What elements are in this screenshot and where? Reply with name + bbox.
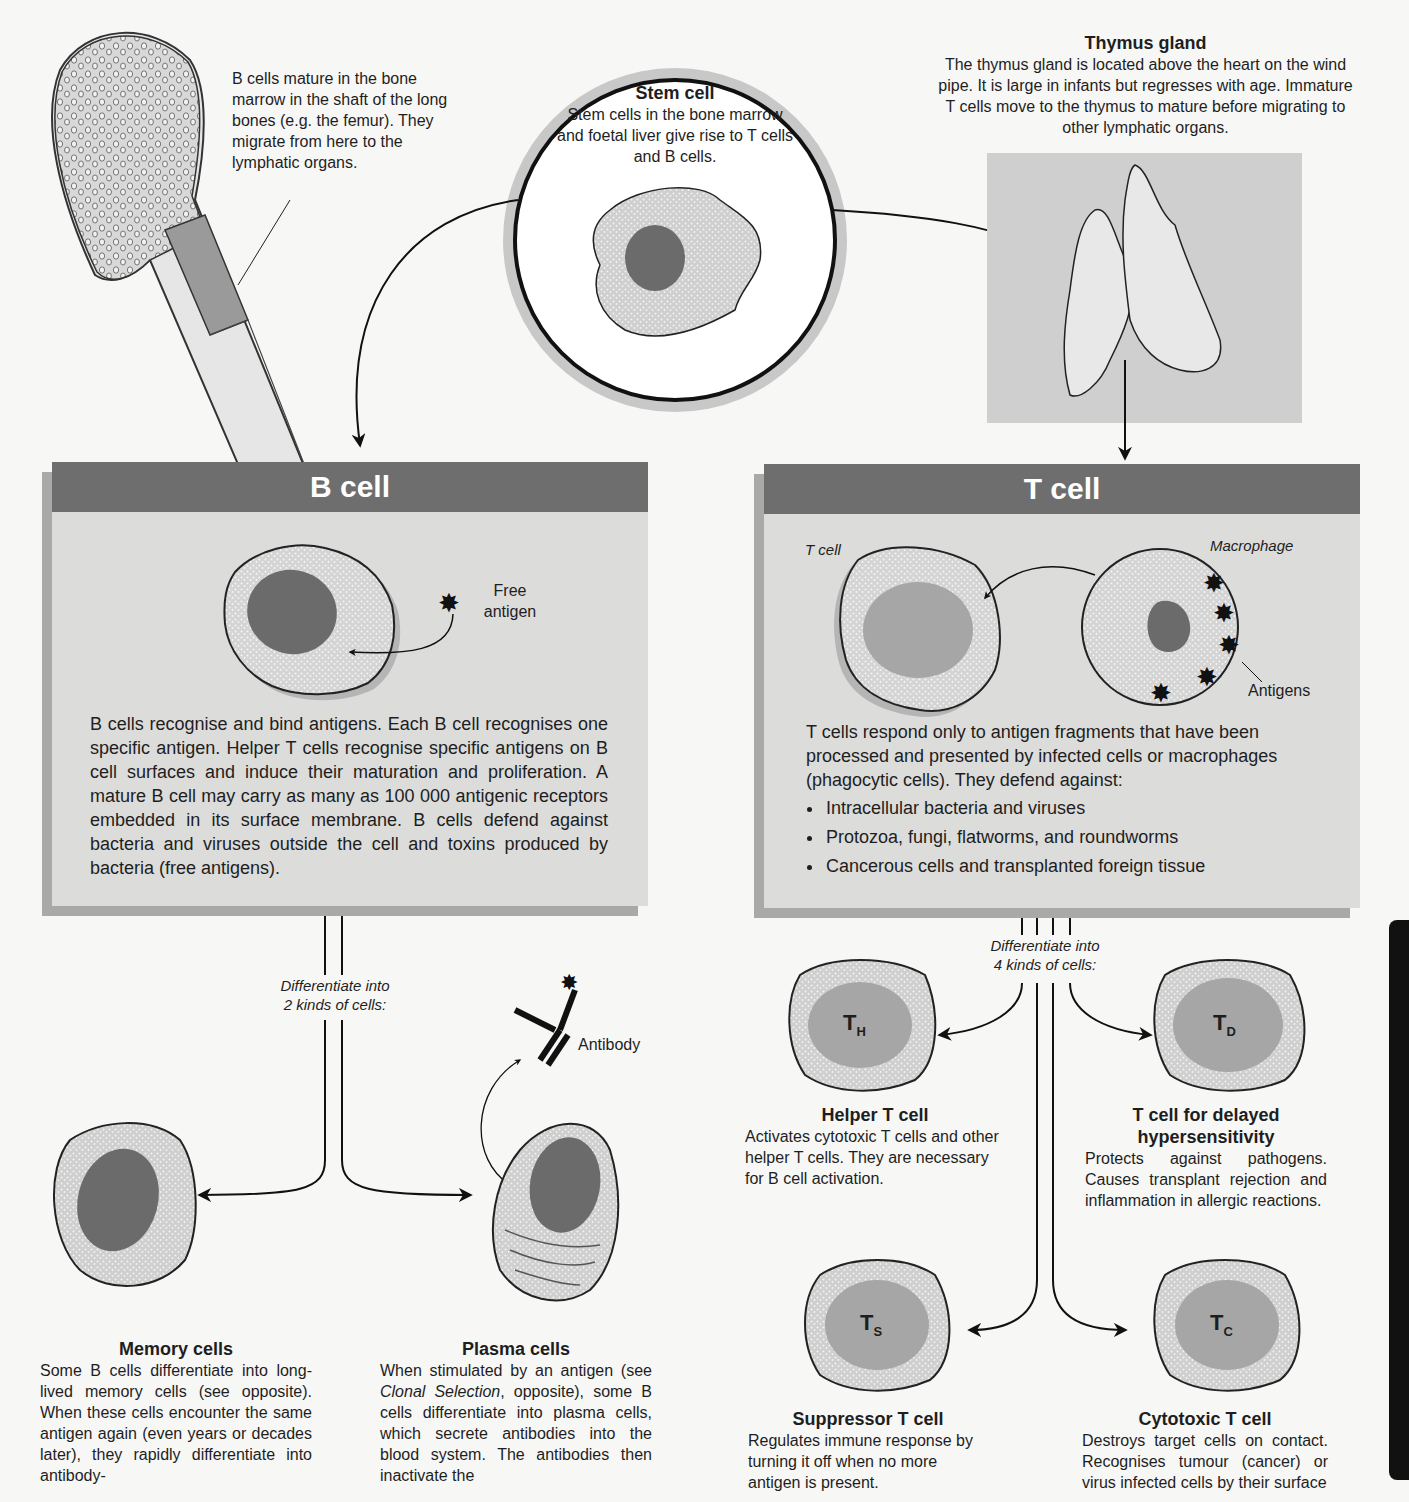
b-cell-description: B cells recognise and bind antigens. Eac… (90, 712, 608, 880)
ts-symbol: TS (860, 1310, 882, 1339)
plasma-cells-title: Plasma cells (380, 1338, 652, 1360)
t-cell-label: T cell (805, 540, 841, 559)
t-diff-line2: 4 kinds of cells: (965, 955, 1125, 974)
delayed-t-cell-block: T cell for delayed hypersensitivity Prot… (1085, 1104, 1327, 1211)
memory-cells-title: Memory cells (40, 1338, 312, 1360)
thymus-text: The thymus gland is located above the he… (938, 54, 1353, 138)
delayed-t-cell-title-1: T cell for delayed (1085, 1104, 1327, 1126)
t-cell-defense-list: Intracellular bacteria and viruses Proto… (806, 796, 1326, 878)
b-cell-panel-header: B cell (52, 462, 648, 512)
helper-t-cell-text: Activates cytotoxic T cells and other he… (745, 1126, 1005, 1189)
b-diff-line2: 2 kinds of cells: (255, 995, 415, 1014)
plasma-cells-text: When stimulated by an antigen (see Clona… (380, 1360, 652, 1486)
b-diff-caption: Differentiate into 2 kinds of cells: (255, 976, 415, 1014)
antigens-label: Antigens (1248, 680, 1310, 701)
stem-cell-callout: Stem cell Stem cells in the bone marrow … (555, 82, 795, 167)
suppressor-t-cell-text: Regulates immune response by turning it … (748, 1430, 988, 1493)
plasma-cells-block: Plasma cells When stimulated by an antig… (380, 1338, 652, 1486)
cytotoxic-t-cell-title: Cytotoxic T cell (1082, 1408, 1328, 1430)
tc-symbol: TC (1210, 1310, 1233, 1339)
thymus-gland-icon (987, 153, 1302, 458)
t-cell-defense-item: Intracellular bacteria and viruses (824, 796, 1326, 820)
b-diff-line1: Differentiate into (255, 976, 415, 995)
helper-t-cell-title: Helper T cell (745, 1104, 1005, 1126)
macrophage-label: Macrophage (1210, 536, 1293, 555)
td-symbol: TD (1213, 1010, 1236, 1039)
t-diff-caption: Differentiate into 4 kinds of cells: (965, 936, 1125, 974)
cytotoxic-t-cell-block: Cytotoxic T cell Destroys target cells o… (1082, 1408, 1328, 1493)
b-cell-panel: B cell B cells recognise and bind antige… (52, 462, 648, 906)
delayed-t-cell-title-2: hypersensitivity (1085, 1126, 1327, 1148)
stem-cell-title: Stem cell (555, 82, 795, 104)
thymus-callout: Thymus gland The thymus gland is located… (938, 32, 1353, 138)
delayed-t-cell-text: Protects against pathogens. Causes trans… (1085, 1148, 1327, 1211)
stem-cell-text: Stem cells in the bone marrow and foetal… (555, 104, 795, 167)
memory-cells-text: Some B cells differentiate into long-liv… (40, 1360, 312, 1486)
free-antigen-label: Free antigen (470, 580, 550, 622)
svg-text:✸: ✸ (560, 970, 578, 995)
memory-cell-illustration (54, 1123, 196, 1286)
plasma-cell-illustration (493, 1124, 618, 1301)
antibody-label: Antibody (578, 1034, 640, 1055)
t-cell-panel-header: T cell (764, 464, 1360, 514)
helper-t-cell-block: Helper T cell Activates cytotoxic T cell… (745, 1104, 1005, 1189)
bone-caption: B cells mature in the bone marrow in the… (232, 68, 462, 173)
t-cell-intro: T cells respond only to antigen fragment… (806, 720, 1326, 792)
suppressor-t-cell-title: Suppressor T cell (748, 1408, 988, 1430)
t-cell-description: T cells respond only to antigen fragment… (806, 720, 1326, 883)
memory-cells-block: Memory cells Some B cells differentiate … (40, 1338, 312, 1486)
clonal-selection-reference: Clonal Selection (380, 1383, 500, 1400)
t-cell-defense-item: Protozoa, fungi, flatworms, and roundwor… (824, 825, 1326, 849)
b-diff-lines (200, 910, 520, 1195)
cytotoxic-t-cell-text: Destroys target cells on contact. Recogn… (1082, 1430, 1328, 1493)
t-diff-line1: Differentiate into (965, 936, 1125, 955)
suppressor-t-cell-block: Suppressor T cell Regulates immune respo… (748, 1408, 988, 1493)
thymus-title: Thymus gland (938, 32, 1353, 54)
antibody-icon: ✸ (515, 970, 578, 1065)
th-symbol: TH (843, 1010, 866, 1039)
page-edge-tab (1389, 920, 1409, 1480)
t-cell-defense-item: Cancerous cells and transplanted foreign… (824, 854, 1326, 878)
